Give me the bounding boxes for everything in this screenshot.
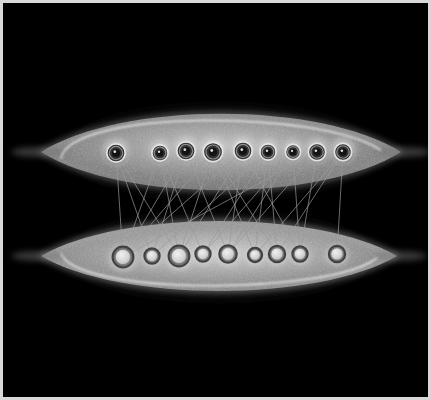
node-core xyxy=(239,147,247,155)
lens-tip-top-cluster xyxy=(11,148,63,157)
lens-tip-bottom-cluster xyxy=(375,252,427,261)
node-B6[interactable] xyxy=(246,246,265,265)
node-core xyxy=(313,148,321,156)
node-B8[interactable] xyxy=(290,244,310,264)
node-T7[interactable] xyxy=(282,141,304,163)
node-specular xyxy=(210,149,213,152)
node-specular xyxy=(266,150,268,152)
lens-tip-top-cluster xyxy=(379,148,431,157)
node-T1[interactable] xyxy=(103,140,129,166)
node-T2[interactable] xyxy=(148,141,171,164)
node-B3[interactable] xyxy=(165,242,193,270)
node-specular xyxy=(341,149,344,152)
node-T5[interactable] xyxy=(230,138,256,164)
visualization-stage xyxy=(0,0,431,400)
node-core xyxy=(290,149,297,156)
node-T8[interactable] xyxy=(305,140,330,165)
node-core xyxy=(112,149,120,157)
node-core xyxy=(182,147,190,155)
node-specular xyxy=(315,149,318,152)
node-specular xyxy=(291,150,293,152)
node-B2[interactable] xyxy=(142,246,162,266)
node-specular xyxy=(240,148,243,151)
node-B4[interactable] xyxy=(193,244,213,264)
node-B5[interactable] xyxy=(216,242,239,265)
lens-tip-bottom-cluster xyxy=(11,252,63,261)
network-canvas xyxy=(0,0,431,400)
node-specular xyxy=(183,148,186,151)
node-core xyxy=(156,149,163,156)
node-B9[interactable] xyxy=(326,243,348,265)
node-B1[interactable] xyxy=(109,243,137,271)
node-core xyxy=(264,148,271,155)
node-core xyxy=(339,148,347,156)
node-B7[interactable] xyxy=(266,243,288,265)
node-T6[interactable] xyxy=(256,140,279,163)
node-specular xyxy=(158,151,160,153)
node-core xyxy=(209,148,218,157)
node-T4[interactable] xyxy=(199,138,227,166)
node-T3[interactable] xyxy=(173,138,199,164)
node-T9[interactable] xyxy=(331,140,356,165)
node-specular xyxy=(113,150,116,153)
